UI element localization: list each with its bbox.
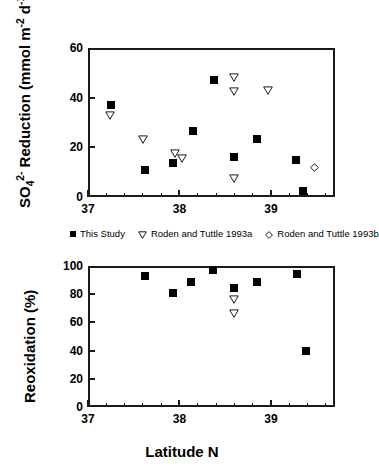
legend-entry-roden-tuttle-1993b: Roden and Tuttle 1993b bbox=[265, 229, 378, 239]
open-diamond-icon bbox=[265, 230, 273, 238]
filled-square-icon bbox=[70, 231, 76, 237]
x-tick-minor bbox=[106, 403, 107, 407]
x-tick-major bbox=[87, 190, 89, 197]
x-tick-minor bbox=[197, 193, 198, 197]
y-axis-title-top: SO42- Reduction (mmol m-2 d-1) bbox=[16, 0, 36, 208]
y-tick-label: 60 bbox=[49, 42, 83, 54]
legend-entry-roden-tuttle-1993a: Roden and Tuttle 1993a bbox=[138, 229, 252, 239]
y-axis-title-top-text: SO42- Reduction (mmol m-2 d-1) bbox=[16, 0, 33, 208]
y-tick-major bbox=[88, 146, 95, 148]
y-tick-label: 40 bbox=[49, 345, 83, 357]
legend: This Study Roden and Tuttle 1993a Roden … bbox=[70, 229, 360, 239]
y-tick-major bbox=[88, 97, 95, 99]
x-tick-minor bbox=[161, 193, 162, 197]
plot-frame-bottom bbox=[88, 266, 335, 407]
x-tick-major bbox=[178, 400, 180, 407]
x-tick-label: 37 bbox=[68, 203, 108, 215]
x-tick-minor bbox=[289, 403, 290, 407]
x-tick-minor bbox=[252, 193, 253, 197]
panel-so4-reduction: SO42- Reduction (mmol m-2 d-1) 373839020… bbox=[0, 0, 364, 220]
legend-label-roden-tuttle-1993b: Roden and Tuttle 1993b bbox=[277, 229, 378, 239]
x-tick-minor bbox=[234, 193, 235, 197]
y-tick-major bbox=[88, 293, 95, 295]
y-tick-major bbox=[88, 321, 95, 323]
legend-label-this-study: This Study bbox=[80, 229, 125, 239]
x-tick-minor bbox=[216, 403, 217, 407]
x-tick-label: 38 bbox=[159, 203, 199, 215]
panel-reoxidation: Reoxidation (%) 373839020406080100 Latit… bbox=[0, 248, 364, 472]
x-tick-minor bbox=[252, 403, 253, 407]
y-tick-major bbox=[88, 378, 95, 380]
y-tick-label: 40 bbox=[49, 92, 83, 104]
open-triangle-down-icon bbox=[138, 230, 147, 238]
y-tick-label: 0 bbox=[49, 401, 83, 413]
y-axis-title-bottom-text: Reoxidation (%) bbox=[21, 290, 38, 403]
x-tick-minor bbox=[142, 403, 143, 407]
x-tick-minor bbox=[216, 193, 217, 197]
x-tick-minor bbox=[234, 403, 235, 407]
legend-label-roden-tuttle-1993a: Roden and Tuttle 1993a bbox=[151, 229, 252, 239]
y-tick-label: 60 bbox=[49, 316, 83, 328]
x-tick-minor bbox=[325, 403, 326, 407]
y-tick-major bbox=[88, 350, 95, 352]
x-tick-minor bbox=[307, 193, 308, 197]
legend-entry-this-study: This Study bbox=[70, 229, 125, 239]
x-tick-minor bbox=[106, 193, 107, 197]
x-tick-minor bbox=[161, 403, 162, 407]
x-tick-minor bbox=[197, 403, 198, 407]
x-tick-label: 37 bbox=[68, 413, 108, 425]
x-tick-label: 38 bbox=[159, 413, 199, 425]
y-axis-title-bottom: Reoxidation (%) bbox=[22, 290, 37, 403]
y-tick-label: 0 bbox=[49, 191, 83, 203]
x-tick-minor bbox=[307, 403, 308, 407]
x-tick-major bbox=[87, 400, 89, 407]
x-tick-minor bbox=[325, 193, 326, 197]
x-tick-minor bbox=[289, 193, 290, 197]
x-tick-major bbox=[178, 190, 180, 197]
x-tick-minor bbox=[142, 193, 143, 197]
x-tick-major bbox=[270, 190, 272, 197]
plot-frame-top bbox=[88, 48, 335, 197]
y-tick-label: 20 bbox=[49, 141, 83, 153]
x-tick-minor bbox=[124, 403, 125, 407]
x-axis-title: Latitude N bbox=[0, 444, 364, 459]
y-tick-label: 100 bbox=[49, 260, 83, 272]
y-tick-label: 20 bbox=[49, 373, 83, 385]
y-tick-label: 80 bbox=[49, 288, 83, 300]
x-tick-label: 39 bbox=[251, 413, 291, 425]
x-tick-label: 39 bbox=[251, 203, 291, 215]
x-tick-major bbox=[270, 400, 272, 407]
x-tick-minor bbox=[124, 193, 125, 197]
